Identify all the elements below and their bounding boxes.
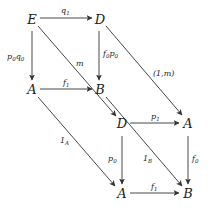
node-b-mid: B: [94, 82, 105, 97]
label-p1: p1: [151, 112, 160, 122]
label-f1-bottom: f1: [150, 182, 157, 192]
label-1-m: (1,m): [153, 69, 174, 78]
label-1a: 1A: [60, 136, 69, 146]
label-f1-mid: f1: [62, 78, 69, 88]
label-f0: f0: [191, 154, 199, 164]
node-d-top: D: [94, 12, 106, 27]
arrow-e-to-d-lower: [38, 26, 116, 116]
node-a-left: A: [26, 82, 36, 97]
label-p0q0: p0q0: [7, 52, 25, 62]
node-b-bottom: B: [182, 186, 193, 201]
label-f0p0: f0p0: [102, 49, 119, 59]
label-1b: 1B: [143, 154, 152, 164]
node-a-bottom: A: [116, 186, 126, 201]
node-e: E: [26, 12, 37, 27]
arrow-b-mid-to-b-bottom: [106, 97, 182, 186]
arrow-a-left-to-a-bottom: [38, 97, 115, 186]
commutative-diagram: E D A B D A A B q1 p0q0 f0p0 f1 m (1,m) …: [0, 0, 211, 210]
label-q1: q1: [61, 6, 70, 16]
label-p0: p0: [108, 154, 117, 164]
node-d-lower: D: [116, 116, 128, 131]
label-m: m: [76, 59, 84, 68]
node-a-right: A: [182, 116, 192, 131]
